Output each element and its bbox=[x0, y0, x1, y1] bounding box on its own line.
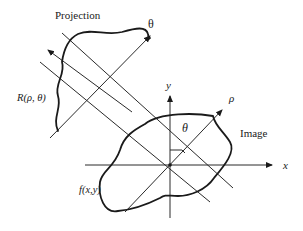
theta-top-label: θ bbox=[148, 17, 154, 31]
radon-diagram: Projection θ R(ρ, θ) y ρ θ Image x f(x,y… bbox=[0, 0, 303, 231]
y-axis-label: y bbox=[165, 79, 171, 91]
projection-profile-curve bbox=[56, 29, 150, 132]
image-label: Image bbox=[240, 127, 268, 139]
image-function-curve bbox=[100, 114, 232, 211]
theta-inner-label: θ bbox=[182, 121, 188, 135]
x-axis-label: x bbox=[282, 159, 288, 171]
rho-label: ρ bbox=[228, 92, 234, 104]
fxy-label: f(x,y) bbox=[79, 184, 101, 196]
r-rho-theta-label: R(ρ, θ) bbox=[16, 92, 46, 104]
origin-point bbox=[168, 163, 172, 167]
projection-label: Projection bbox=[55, 9, 101, 21]
